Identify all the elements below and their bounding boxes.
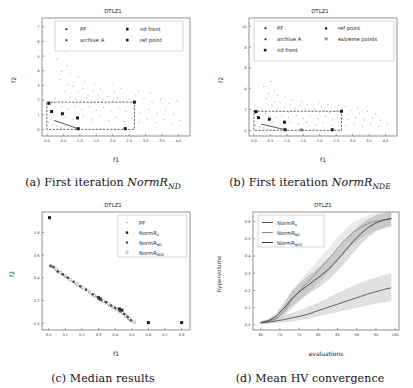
legend-label-extreme-points: extreme points xyxy=(338,36,378,43)
data-point xyxy=(318,118,319,119)
legend-label-normr-nde: NormR xyxy=(139,250,157,256)
caption-c-prefix: (c) xyxy=(51,372,66,385)
data-point xyxy=(129,99,130,100)
data-point xyxy=(268,118,271,121)
x-tick-label: 4.0 xyxy=(176,139,182,143)
data-point xyxy=(121,315,122,316)
x-tick-label: 0.0 xyxy=(44,139,50,143)
data-point xyxy=(296,115,297,116)
data-point xyxy=(148,109,149,110)
x-tick-label: 2.5 xyxy=(126,139,132,143)
data-point xyxy=(112,100,113,101)
data-point xyxy=(271,122,272,123)
legend-label-pf: PF xyxy=(139,220,145,226)
x-tick-label: 0.7 xyxy=(162,333,168,337)
y-tick-label: 5 xyxy=(37,55,39,59)
data-point xyxy=(135,95,136,96)
data-point xyxy=(359,113,360,114)
data-point xyxy=(61,112,64,115)
caption-c-text: Median results xyxy=(70,372,155,385)
y-tick-label: 4 xyxy=(244,87,247,91)
x-tick-label: 65 xyxy=(258,333,263,337)
y-tick-label: 0.6 xyxy=(34,254,40,258)
y-tick-label: 7 xyxy=(37,25,39,29)
legend-marker-ref-point xyxy=(126,39,129,42)
data-point xyxy=(307,104,308,105)
data-point xyxy=(266,98,267,99)
data-point xyxy=(275,117,276,118)
figure-grid: DTLZ1 PF archive A nd front ref point xyxy=(0,0,413,388)
legend-label-archive: archive A xyxy=(80,37,105,43)
legend-marker-normr-nd xyxy=(126,241,128,243)
data-point xyxy=(61,71,62,72)
data-point xyxy=(285,96,286,97)
data-point xyxy=(133,108,134,109)
data-point xyxy=(56,126,57,127)
data-point xyxy=(105,303,106,304)
legend-label-archive: archive A xyxy=(277,36,302,42)
data-point xyxy=(138,91,139,92)
data-point xyxy=(70,73,71,74)
legend-marker-extreme-points: ✳ xyxy=(324,35,329,42)
legend-label-normr-nd: NormR xyxy=(277,230,295,236)
data-point xyxy=(102,99,103,100)
data-point: ✳ xyxy=(253,109,258,115)
data-point xyxy=(331,125,332,126)
caption-b-sub: NDE xyxy=(372,182,390,191)
x-tick-label: 0.6 xyxy=(146,333,152,337)
data-point xyxy=(73,86,74,87)
data-point xyxy=(355,117,356,118)
data-point xyxy=(319,102,320,103)
data-point xyxy=(108,306,109,307)
data-point xyxy=(338,122,339,123)
data-point xyxy=(271,105,272,106)
data-point xyxy=(97,95,98,96)
x-tick-label: 2.5 xyxy=(333,139,339,143)
chart-a: DTLZ1 PF archive A nd front ref point xyxy=(0,0,206,166)
data-point xyxy=(259,126,260,127)
x-tick-label: 1.5 xyxy=(300,139,306,143)
data-point xyxy=(114,91,115,92)
legend-label-ref-point: ref point xyxy=(140,37,162,44)
data-point xyxy=(131,117,132,118)
legend-label-normr-a: NormR xyxy=(277,220,295,226)
data-point xyxy=(310,115,311,116)
data-point xyxy=(124,127,127,130)
data-point xyxy=(340,110,343,113)
data-point xyxy=(329,112,330,113)
data-point xyxy=(150,92,151,93)
data-point xyxy=(354,123,355,124)
data-point xyxy=(347,119,348,120)
data-point xyxy=(319,112,320,113)
data-point xyxy=(270,81,271,82)
y-tick-label: 8 xyxy=(244,46,247,50)
x-tick-label: 85 xyxy=(335,333,340,337)
data-point xyxy=(81,100,82,101)
legend-sub-normr-nde: NDE xyxy=(295,243,302,247)
y-tick-label: 0 xyxy=(37,128,40,132)
legend-label-ref-point: ref point xyxy=(338,25,360,32)
data-point xyxy=(125,111,126,112)
x-tick-label: 1.0 xyxy=(284,139,290,143)
legend-marker-pf xyxy=(265,27,267,29)
chart-b-plot-area: PF archive A nd front ref point ✳ extrem… xyxy=(242,18,397,143)
data-point xyxy=(171,123,172,124)
data-point xyxy=(367,111,368,112)
data-point xyxy=(257,116,260,119)
data-point xyxy=(315,124,316,125)
data-point xyxy=(81,109,82,110)
x-tick-label: 4.0 xyxy=(383,139,389,143)
data-point xyxy=(68,108,69,109)
x-tick-label: 0.3 xyxy=(96,333,102,337)
data-point xyxy=(276,109,277,110)
y-tick-label: 0.2 xyxy=(34,299,40,303)
data-point xyxy=(372,117,373,118)
x-tick-label: 0.0 xyxy=(251,139,257,143)
x-tick-label: 3.5 xyxy=(159,139,165,143)
data-point xyxy=(288,112,289,113)
chart-b-xlabel: f1 xyxy=(320,156,326,163)
data-point xyxy=(309,110,310,111)
data-point xyxy=(327,104,328,105)
x-tick-label: 100 xyxy=(392,333,400,337)
data-point xyxy=(324,110,325,111)
